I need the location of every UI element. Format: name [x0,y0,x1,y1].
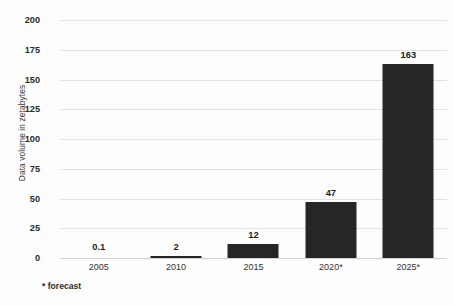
y-tick-label: 0 [0,253,40,263]
y-tick-label: 100 [0,134,40,144]
x-axis-labels: 2005201020152020*2025* [60,0,447,305]
y-tick-label: 150 [0,75,40,85]
category-label: 2005 [60,262,137,272]
y-tick-label: 125 [0,104,40,114]
bar-chart: Data volume in zetabytes 025507510012515… [0,0,454,305]
y-tick-label: 75 [0,164,40,174]
y-tick-label: 200 [0,15,40,25]
category-label: 2020* [292,262,369,272]
category-label: 2015 [215,262,292,272]
category-label: 2010 [137,262,214,272]
category-label: 2025* [370,262,447,272]
y-tick-label: 175 [0,45,40,55]
forecast-footnote: * forecast [42,281,81,291]
y-tick-label: 50 [0,194,40,204]
y-tick-label: 25 [0,223,40,233]
